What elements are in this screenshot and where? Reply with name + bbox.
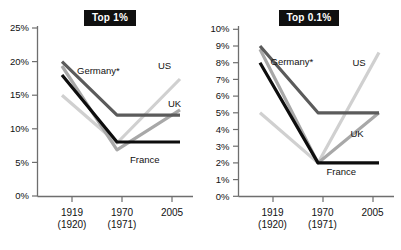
- x-ticks-right: [273, 197, 373, 203]
- y-tick-label-right-7: 3%: [201, 142, 230, 151]
- y-tick-label-left-0: 25%: [0, 23, 29, 32]
- series-label-us-right: US: [353, 58, 366, 68]
- y-tick-label-right-10: 0%: [201, 192, 230, 201]
- series-line-us-right: [260, 53, 379, 163]
- series-label-germany-left: Germany*: [77, 66, 120, 76]
- chart-panels: Top 1%: [0, 0, 401, 250]
- y-tick-label-right-3: 7%: [201, 75, 230, 84]
- x-ticks-left: [72, 197, 172, 203]
- y-ticks-left: [32, 28, 38, 196]
- y-tick-label-left-1: 20%: [0, 57, 29, 66]
- x-tick-label-right-1-line2: (1971): [293, 219, 353, 230]
- series-label-germany-right: Germany*: [271, 57, 314, 67]
- x-tick-label-left-1-line2: (1971): [92, 219, 152, 230]
- series-label-uk-left: UK: [168, 99, 181, 109]
- y-tick-label-right-1: 9%: [201, 41, 230, 50]
- y-tick-label-right-2: 8%: [201, 58, 230, 67]
- y-tick-label-right-8: 2%: [201, 158, 230, 167]
- series-line-us-left: [62, 79, 180, 143]
- chart-panel-top-0-1-percent: Top 0.1%: [201, 0, 401, 250]
- series-label-france-right: France: [327, 167, 357, 177]
- y-ticks-right: [233, 29, 239, 196]
- y-tick-label-left-5: 0%: [0, 191, 29, 200]
- x-tick-label-right-2-line1: 2005: [343, 207, 401, 218]
- x-tick-label-left-2-line1: 2005: [142, 207, 202, 218]
- y-tick-label-left-4: 5%: [0, 158, 29, 167]
- chart-panel-top-1-percent: Top 1%: [0, 0, 201, 250]
- series-label-france-left: France: [130, 155, 160, 165]
- y-tick-label-right-4: 6%: [201, 91, 230, 100]
- y-tick-label-right-5: 5%: [201, 108, 230, 117]
- y-tick-label-right-0: 10%: [201, 24, 230, 33]
- y-tick-label-left-2: 15%: [0, 90, 29, 99]
- y-tick-label-left-3: 10%: [0, 124, 29, 133]
- y-tick-label-right-9: 1%: [201, 175, 230, 184]
- series-label-us-left: US: [158, 61, 171, 71]
- y-tick-label-right-6: 4%: [201, 125, 230, 134]
- series-label-uk-right: UK: [351, 129, 364, 139]
